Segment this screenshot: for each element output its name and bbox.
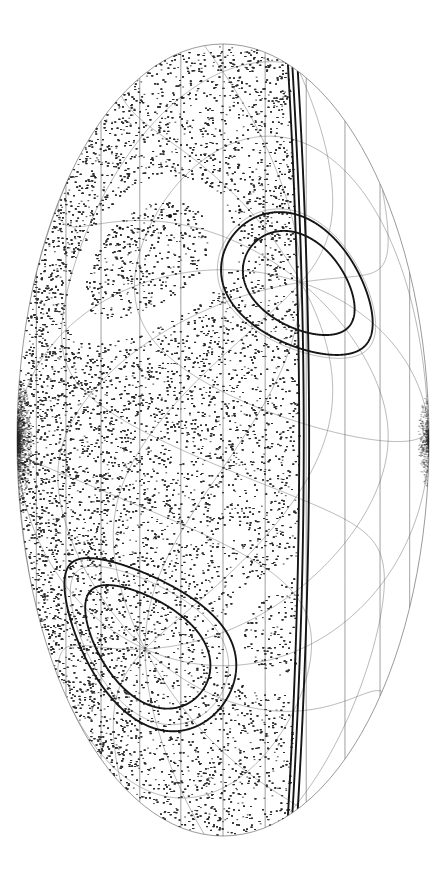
- bright-point-a: [168, 214, 172, 218]
- rotated-graticule-meridian: [58, 204, 301, 676]
- pole-concentration-right: [418, 395, 441, 486]
- bright-point-f: [119, 227, 122, 230]
- scatter-dots: [17, 47, 300, 835]
- figure-canvas: [0, 0, 447, 884]
- bright-point-d: [98, 638, 101, 641]
- all-sky-survey-map: [0, 0, 447, 884]
- bright-point-e: [149, 499, 152, 502]
- native-graticule: [36, 44, 409, 836]
- rotated-graticule-parallel: [18, 175, 311, 798]
- rotated-graticule-meridian: [145, 282, 388, 649]
- bright-point-b: [238, 208, 241, 211]
- point-source-scatter: [17, 47, 300, 835]
- bright-point-c: [279, 205, 282, 208]
- rotated-graticule-meridian: [58, 282, 301, 649]
- masked-band-boundaries: [64, 64, 372, 816]
- pole-concentration-left: [3, 379, 32, 500]
- bright-point-markers: [98, 205, 281, 642]
- rotated-graticule-meridian: [145, 190, 388, 711]
